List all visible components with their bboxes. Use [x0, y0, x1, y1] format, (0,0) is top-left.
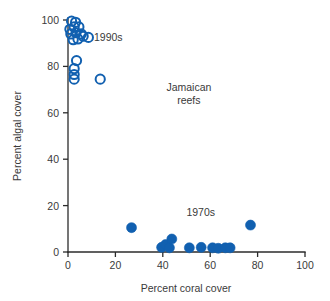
annotation-1990s: 1990s: [94, 31, 123, 43]
y-tick-label: 0: [53, 246, 59, 258]
x-axis-title: Percent coral cover: [141, 282, 232, 294]
y-tick-label: 40: [47, 153, 59, 165]
data-point-open: [96, 75, 105, 84]
scatter-plot-figure: 020406080100 020406080100 1990sJamaicanr…: [0, 0, 330, 301]
axis-titles: Percent coral cover Percent algal cover: [11, 91, 232, 294]
data-point-filled: [164, 243, 174, 253]
x-tick-label: 100: [296, 259, 314, 271]
chart-annotations: 1990sJamaicanreefs1970s: [94, 31, 215, 218]
data-points-group: [65, 17, 255, 254]
x-tick-label: 60: [204, 259, 216, 271]
annotation-1970s: 1970s: [186, 206, 215, 218]
y-tick-label: 20: [47, 200, 59, 212]
y-axis-title: Percent algal cover: [11, 91, 23, 181]
data-point-filled: [245, 220, 255, 230]
y-tick-labels: 020406080100: [41, 14, 59, 258]
data-point-filled: [196, 242, 206, 252]
series-1990s: [65, 17, 105, 84]
chart-canvas: 020406080100 020406080100 1990sJamaicanr…: [0, 0, 330, 301]
annotation-jamaican: Jamaican: [166, 81, 211, 93]
y-tick-label: 100: [41, 14, 59, 26]
x-tick-label: 40: [157, 259, 169, 271]
data-point-filled: [167, 234, 177, 244]
tick-marks-group: [63, 20, 305, 257]
y-tick-label: 60: [47, 107, 59, 119]
x-tick-label: 20: [110, 259, 122, 271]
data-point-filled: [127, 223, 137, 233]
series-1970s: [127, 220, 256, 253]
data-point-filled: [225, 243, 235, 253]
x-tick-labels: 020406080100: [65, 259, 314, 271]
y-tick-label: 80: [47, 60, 59, 72]
annotation-reefs: reefs: [177, 94, 200, 106]
data-point-filled: [184, 243, 194, 253]
x-tick-label: 0: [65, 259, 71, 271]
x-tick-label: 80: [252, 259, 264, 271]
